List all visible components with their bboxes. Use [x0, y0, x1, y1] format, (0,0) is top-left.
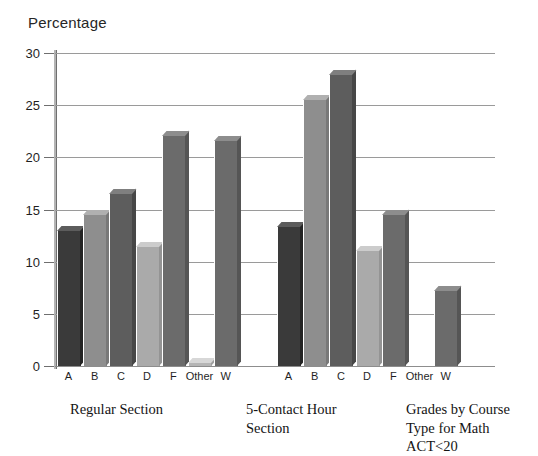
bar-face [277, 226, 301, 366]
bar-1-d [136, 246, 159, 366]
y-tick-label-10: 10 [26, 254, 40, 269]
y-tick-label-25: 25 [26, 98, 40, 113]
bar-top [214, 136, 242, 141]
x-label-2-d: D [363, 370, 371, 382]
bar-top [356, 246, 384, 251]
bar-face [329, 74, 353, 366]
y-tick-mark-0 [44, 366, 54, 367]
bar-1-f [162, 135, 185, 366]
bar-2-d [356, 250, 379, 366]
bar-face [109, 193, 133, 366]
bar-1-c [109, 193, 132, 366]
x-label-2-a: A [285, 370, 292, 382]
y-tick-mark-15 [44, 210, 54, 211]
bar-top [303, 95, 331, 100]
bar-1-a [57, 230, 80, 366]
bar-face [136, 246, 160, 366]
bar-1-other [188, 362, 211, 366]
bar-top [434, 286, 462, 291]
x-label-1-f: F [170, 370, 177, 382]
bar-top [136, 242, 164, 247]
group-caption-five-contact-hour: 5-Contact Hour Section [246, 400, 376, 437]
x-label-2-other: Other [406, 370, 434, 382]
bar-top [83, 210, 111, 215]
x-label-1-other: Other [186, 370, 214, 382]
bar-2-c [329, 74, 352, 366]
bar-face [303, 99, 327, 366]
bar-2-b [303, 99, 326, 366]
x-label-1-b: B [91, 370, 98, 382]
bar-face [434, 290, 458, 366]
y-tick-mark-25 [44, 105, 54, 106]
x-label-2-b: B [311, 370, 318, 382]
bars-layer [55, 53, 495, 366]
y-tick-mark-10 [44, 262, 54, 263]
bar-1-b [83, 214, 106, 366]
bar-face [162, 135, 186, 366]
x-label-2-w: W [440, 370, 450, 382]
bar-top [188, 358, 216, 363]
y-tick-label-30: 30 [26, 46, 40, 61]
bar-top [277, 222, 305, 227]
bar-face [356, 250, 380, 366]
x-label-2-c: C [337, 370, 345, 382]
y-tick-mark-20 [44, 157, 54, 158]
bar-side [405, 209, 409, 366]
bar-top [329, 70, 357, 75]
bar-2-w [434, 290, 457, 366]
x-axis-baseline [55, 366, 495, 367]
y-tick-mark-30 [44, 53, 54, 54]
bar-face [83, 214, 107, 366]
bar-side [237, 135, 241, 366]
y-tick-label-20: 20 [26, 150, 40, 165]
x-label-1-c: C [117, 370, 125, 382]
x-label-1-d: D [143, 370, 151, 382]
bar-1-w [214, 140, 237, 366]
y-axis-ticks: 051015202530 [0, 0, 48, 456]
y-tick-label-15: 15 [26, 202, 40, 217]
bar-top [109, 189, 137, 194]
bar-face [214, 140, 238, 366]
y-tick-mark-5 [44, 314, 54, 315]
bar-chart: Percentage 051015202530 ABCDFOtherWABCDF… [0, 0, 538, 456]
y-tick-label-0: 0 [33, 359, 40, 374]
bar-2-f [382, 214, 405, 366]
y-tick-label-5: 5 [33, 306, 40, 321]
bar-top [382, 210, 410, 215]
bar-side [457, 285, 461, 366]
figure-caption: Grades by Course Type for Math ACT<20 [406, 400, 538, 456]
group-caption-regular: Regular Section [70, 400, 163, 419]
x-label-2-f: F [390, 370, 397, 382]
bar-face [382, 214, 406, 366]
x-label-1-w: W [220, 370, 230, 382]
bar-top [162, 131, 190, 136]
bar-2-a [277, 226, 300, 366]
x-label-1-a: A [65, 370, 72, 382]
bar-side [185, 131, 189, 366]
bar-face [57, 230, 81, 366]
